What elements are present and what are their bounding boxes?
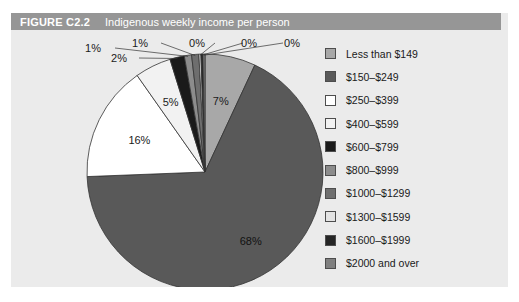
legend-item-label: $250–$399	[346, 94, 399, 106]
legend-color-swatch	[325, 188, 336, 199]
legend-color-swatch	[325, 141, 336, 152]
legend-item[interactable]: $150–$249	[325, 65, 490, 88]
legend-color-swatch	[325, 71, 336, 82]
legend-item[interactable]: $600–$799	[325, 135, 490, 158]
leader-line	[202, 43, 243, 55]
legend-item[interactable]: $1000–$1299	[325, 182, 490, 205]
pie-data-label: 7%	[213, 95, 229, 107]
legend-color-swatch	[325, 48, 336, 59]
legend-item[interactable]: $2000 and over	[325, 252, 490, 275]
pie-data-label: 0%	[189, 37, 205, 49]
pie-data-label: 1%	[132, 37, 148, 49]
legend-item-label: $1600–$1999	[346, 234, 410, 246]
legend-item-label: Less than $149	[346, 48, 418, 60]
figure-title-bar: FIGURE C2.2 Indigenous weekly income per…	[11, 13, 501, 30]
pie-data-label: 68%	[240, 235, 262, 247]
legend-color-swatch	[325, 211, 336, 222]
legend-item[interactable]: $400–$599	[325, 112, 490, 135]
chart-legend: Less than $149$150–$249$250–$399$400–$59…	[325, 42, 490, 275]
legend-item-label: $1000–$1299	[346, 187, 410, 199]
legend-color-swatch	[325, 95, 336, 106]
pie-slice-group	[87, 54, 323, 287]
legend-item[interactable]: $800–$999	[325, 158, 490, 181]
legend-item-label: $600–$799	[346, 141, 399, 153]
pie-data-label: 1%	[85, 42, 101, 54]
legend-item-label: $150–$249	[346, 71, 399, 83]
legend-color-swatch	[325, 235, 336, 246]
legend-color-swatch	[325, 258, 336, 269]
pie-data-label: 16%	[128, 134, 150, 146]
pie-data-label: 0%	[241, 37, 257, 49]
figure-title: Indigenous weekly income per person	[105, 16, 290, 28]
leader-line	[139, 58, 177, 59]
legend-color-swatch	[325, 118, 336, 129]
pie-data-label: 5%	[163, 96, 179, 108]
legend-item-label: $2000 and over	[346, 257, 419, 269]
legend-color-swatch	[325, 165, 336, 176]
legend-item-label: $1300–$1599	[346, 211, 410, 223]
legend-item[interactable]: $1600–$1999	[325, 228, 490, 251]
legend-item-label: $400–$599	[346, 118, 399, 130]
figure-number: FIGURE C2.2	[20, 16, 90, 28]
legend-item[interactable]: Less than $149	[325, 42, 490, 65]
legend-item[interactable]: $250–$399	[325, 89, 490, 112]
pie-data-label: 0%	[284, 37, 300, 49]
legend-item[interactable]: $1300–$1599	[325, 205, 490, 228]
pie-data-label: 2%	[111, 52, 127, 64]
legend-item-label: $800–$999	[346, 164, 399, 176]
